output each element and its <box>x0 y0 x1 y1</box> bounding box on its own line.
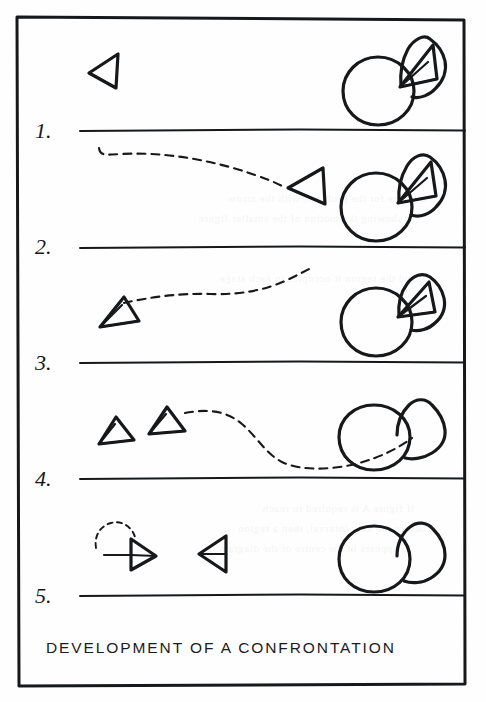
path-approach-2 <box>99 148 286 188</box>
enclosure-blob-5 <box>397 523 445 583</box>
panel-rule-2 <box>80 247 465 249</box>
triangle-approaching-2 <box>288 168 325 204</box>
panel-rule-5 <box>80 595 465 597</box>
path-departure-s-curve-4 <box>185 411 412 469</box>
step-number-2: 2. <box>35 234 52 259</box>
triangle-facing-right-5 <box>104 539 156 570</box>
confrontation-diagram: 1. 2. <box>0 0 486 702</box>
step-number-3: 3. <box>34 350 52 375</box>
enclosure-blob-2 <box>399 155 446 216</box>
path-retreat-3 <box>124 268 311 303</box>
step-number-4: 4. <box>35 466 52 491</box>
step-number-5: 5. <box>35 583 52 608</box>
triangle-left-b-4 <box>149 407 185 434</box>
panel-rule-1 <box>80 130 465 132</box>
triangle-left-a-4 <box>99 417 134 444</box>
enclosure-blob-4 <box>397 400 445 459</box>
circle-defender-4 <box>339 405 410 470</box>
panel-1: 1. <box>35 37 465 143</box>
panel-5: 5. <box>35 522 465 608</box>
panel-4: 4. <box>35 400 465 491</box>
dashed-circle-ghost-5 <box>96 522 135 548</box>
figure-page: a figure for the problem, with the arrow… <box>0 0 486 702</box>
triangle-retreated-3 <box>100 297 139 327</box>
triangle-left-far <box>89 54 118 88</box>
figure-caption: DEVELOPMENT OF A CONFRONTATION <box>46 639 396 656</box>
circle-defender-5 <box>339 526 410 592</box>
panel-3: 3. <box>34 268 465 375</box>
panel-rule-3 <box>80 362 465 364</box>
panel-rule-4 <box>80 478 465 480</box>
circle-defender-1 <box>343 57 414 125</box>
triangle-facing-left-5 <box>199 536 226 572</box>
triangle-in-enclosure-2 <box>398 162 436 203</box>
panel-2: 2. <box>35 148 465 259</box>
step-number-1: 1. <box>35 118 52 143</box>
